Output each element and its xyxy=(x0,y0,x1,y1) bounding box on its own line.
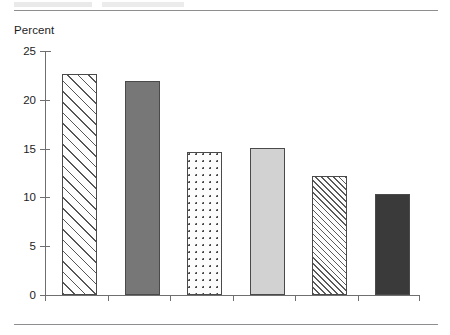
y-tick-label-0: 0 xyxy=(30,289,36,301)
y-tick-25 xyxy=(40,51,51,52)
y-axis-line xyxy=(45,51,46,295)
y-tick-15 xyxy=(40,149,50,150)
y-tick-label-15: 15 xyxy=(23,143,36,155)
bar-march-1991[interactable] xyxy=(62,74,97,295)
x-tick-2 xyxy=(170,295,171,301)
x-tick-0 xyxy=(45,295,46,301)
y-tick-10 xyxy=(40,197,50,198)
y-axis-title: Percent xyxy=(14,24,54,36)
y-tick-label-25: 25 xyxy=(23,45,36,57)
horizontal-rule-top xyxy=(14,10,438,11)
bar-november-1991[interactable] xyxy=(187,152,222,295)
x-tick-4 xyxy=(295,295,296,301)
y-tick-label-20: 20 xyxy=(23,94,36,106)
page-top-artifact xyxy=(14,2,184,7)
bar-november-1992[interactable] xyxy=(375,194,410,295)
x-tick-3 xyxy=(233,295,234,301)
bar-july-1991[interactable] xyxy=(125,81,160,295)
x-tick-5 xyxy=(358,295,359,301)
horizontal-rule-bottom xyxy=(14,324,438,325)
y-tick-label-10: 10 xyxy=(23,191,36,203)
x-tick-1 xyxy=(108,295,109,301)
chart-page: Percent 25 20 15 10 5 0 March 1991 xyxy=(0,0,450,335)
bar-march-1992[interactable] xyxy=(250,148,285,295)
y-tick-label-5: 5 xyxy=(30,240,36,252)
bar-july-1992[interactable] xyxy=(312,176,347,295)
x-tick-6 xyxy=(419,295,420,301)
y-tick-5 xyxy=(40,246,50,247)
plot-area: 25 20 15 10 5 0 March 1991 July 1991 Nov… xyxy=(45,51,420,295)
y-tick-20 xyxy=(40,100,50,101)
